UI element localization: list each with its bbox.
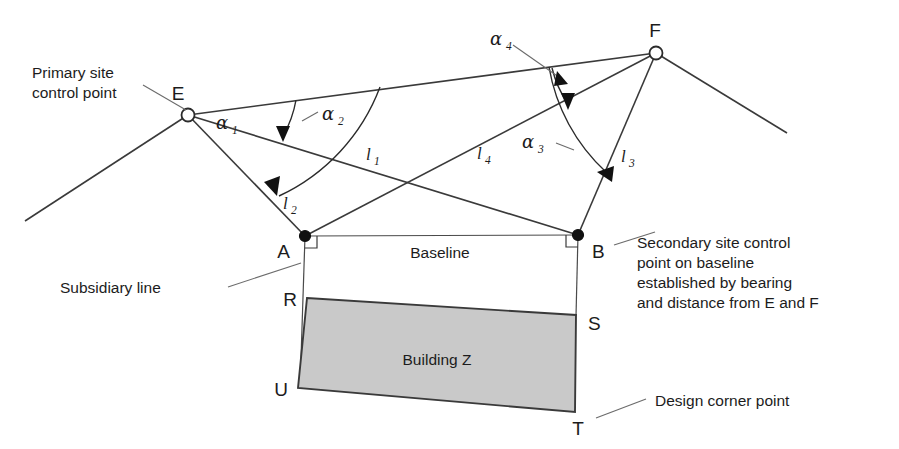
label-building-z: Building Z [403, 351, 472, 368]
annotation-subsidiary-line: Subsidiary line [60, 279, 161, 296]
distance-label-l4: l 4 [477, 144, 491, 166]
leader-design-corner [596, 399, 646, 418]
angle-label-alpha1: α 1 [216, 112, 238, 136]
leader-subsidiary-line [228, 263, 301, 287]
angle-label-alpha3: α 3 [522, 131, 544, 155]
angle-label-alpha1-symbol: α [216, 112, 228, 133]
annotation-primary-control-line1: Primary site [32, 64, 114, 81]
annotation-secondary-control-line1: Secondary site control [637, 234, 790, 251]
angle-label-alpha2-symbol: α [322, 103, 334, 124]
label-baseline: Baseline [410, 244, 469, 261]
annotation-secondary-control-line2: point on baseline [637, 254, 754, 271]
angle-label-alpha4: α 4 [490, 28, 512, 52]
angle-arrow-alpha2 [264, 176, 280, 196]
control-point-marker-B[interactable] [573, 230, 584, 241]
distance-label-l3-sub: 3 [628, 157, 635, 169]
angle-label-alpha1-sub: 1 [232, 124, 238, 136]
leader-alpha2 [302, 112, 318, 121]
angle-label-alpha3-sub: 3 [537, 143, 544, 155]
control-point-marker-E[interactable] [182, 109, 195, 122]
control-point-marker-F[interactable] [650, 47, 663, 60]
distance-label-l2-sub: 2 [291, 204, 297, 216]
annotation-design-corner: Design corner point [655, 392, 790, 409]
point-label-F: F [649, 20, 661, 41]
angle-label-alpha2: α 2 [322, 103, 344, 127]
annotation-secondary-control-line3: established by bearing [637, 274, 792, 291]
survey-diagram: E F A B R S U T α 1 α 2 α 3 α 4 l 1 l 2 … [0, 0, 899, 449]
angle-label-alpha4-symbol: α [490, 28, 502, 49]
angle-label-alpha2-sub: 2 [338, 115, 344, 127]
control-point-marker-A[interactable] [300, 231, 311, 242]
sightline-E-F [188, 53, 656, 115]
point-label-A: A [277, 241, 290, 262]
distance-label-l3-symbol: l [621, 147, 626, 166]
distance-label-l3: l 3 [621, 147, 635, 169]
distance-label-l1: l 1 [366, 145, 380, 167]
point-label-S: S [588, 313, 601, 334]
distance-label-l1-symbol: l [366, 145, 371, 164]
annotation-primary-control-line2: control point [32, 84, 117, 101]
angle-label-alpha4-sub: 4 [506, 40, 512, 52]
distance-label-l2-symbol: l [283, 194, 288, 213]
distance-label-l4-symbol: l [477, 144, 482, 163]
annotation-secondary-control-line4: and distance from E and F [637, 294, 819, 311]
angle-arrow-alpha1 [276, 126, 290, 142]
distance-label-l4-sub: 4 [485, 154, 491, 166]
angle-arrow-alpha3 [597, 166, 614, 182]
distance-label-l1-sub: 1 [374, 155, 380, 167]
leader-alpha3 [556, 143, 574, 150]
distance-line-l3-F-B [578, 53, 656, 235]
leader-alpha4 [513, 45, 563, 80]
leader-arrowhead-alpha4 [554, 71, 568, 86]
point-label-E: E [172, 83, 185, 104]
point-label-R: R [283, 289, 297, 310]
point-label-U: U [274, 379, 288, 400]
ray-from-E-left [25, 115, 188, 221]
point-label-B: B [592, 241, 605, 262]
distance-label-l2: l 2 [283, 194, 297, 216]
ray-from-F-right [656, 53, 787, 133]
point-label-T: T [572, 418, 584, 439]
angle-label-alpha3-symbol: α [522, 131, 534, 152]
baseline-A-B [305, 235, 578, 236]
